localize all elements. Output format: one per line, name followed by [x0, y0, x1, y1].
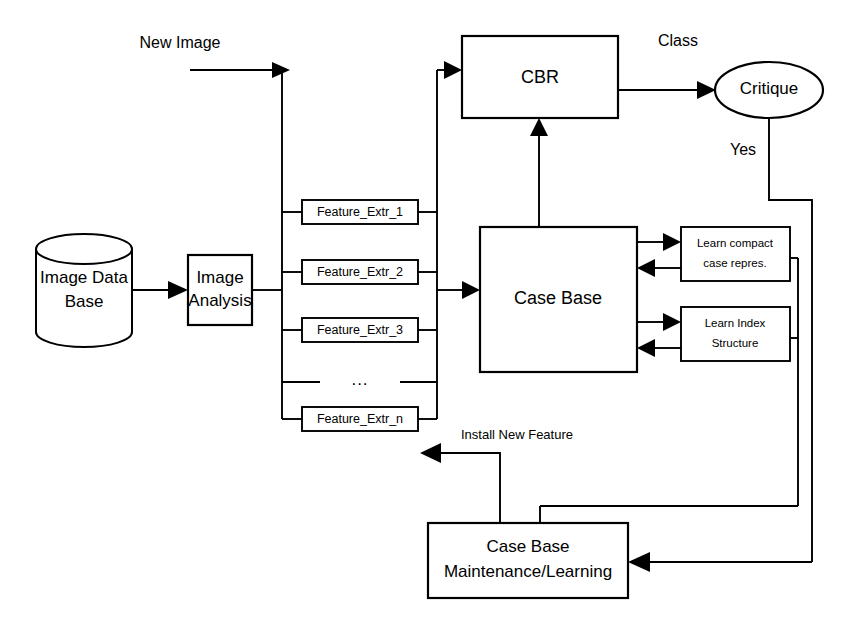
feature-extractor-2-label: Feature_Extr_2: [317, 265, 403, 279]
cbr-label: CBR: [521, 67, 559, 87]
edge-imagedb-to-analysis: [133, 281, 188, 299]
learn-index-label-line1: Learn Index: [705, 317, 766, 329]
image-analysis-label-line1: Image: [196, 268, 243, 287]
feature-extractor-3-label: Feature_Extr_3: [317, 323, 403, 337]
feature-extractor-1-label: Feature_Extr_1: [317, 205, 403, 219]
node-image-database[interactable]: Image Data Base: [36, 234, 132, 347]
diagram-canvas: Image Data Base Image Analysis Feature_E…: [0, 0, 859, 636]
image-database-label-line1: Image Data: [40, 268, 128, 287]
edge-label-yes: Yes: [730, 141, 756, 158]
image-analysis-label-line2: Analysis: [188, 291, 251, 310]
critique-label: Critique: [740, 79, 799, 98]
node-case-base[interactable]: Case Base: [480, 227, 637, 372]
node-maintenance[interactable]: Case Base Maintenance/Learning: [428, 523, 628, 598]
node-cbr[interactable]: CBR: [462, 36, 618, 118]
learn-compact-label-line1: Learn compact: [697, 237, 774, 249]
edge-casebase-to-cbr: [530, 118, 548, 227]
learn-index-label-line2: Structure: [712, 337, 759, 349]
node-image-analysis[interactable]: Image Analysis: [188, 255, 252, 325]
node-feature-extractor-2[interactable]: Feature_Extr_2: [302, 260, 418, 284]
edge-label-new-image: New Image: [140, 34, 221, 51]
case-base-label: Case Base: [514, 288, 602, 308]
edge-casebase-learncompact: [637, 233, 681, 277]
node-critique[interactable]: Critique: [715, 62, 823, 118]
flow-diagram: Image Data Base Image Analysis Feature_E…: [0, 0, 859, 636]
node-feature-extractor-3[interactable]: Feature_Extr_3: [302, 318, 418, 342]
edge-label-class: Class: [658, 32, 698, 49]
learn-compact-label-line2: case repres.: [703, 257, 766, 269]
edge-cbr-to-critique: [618, 81, 716, 99]
node-feature-extractor-n[interactable]: Feature_Extr_n: [302, 407, 418, 431]
edge-casebase-learnindex: [637, 313, 681, 357]
node-learn-index[interactable]: Learn Index Structure: [681, 307, 790, 361]
edge-new-image: [190, 62, 290, 78]
edge-distribution-spine: [252, 70, 320, 419]
maintenance-label-line2: Maintenance/Learning: [444, 562, 612, 581]
maintenance-label-line1: Case Base: [486, 537, 569, 556]
feature-extractor-ellipsis: ...: [351, 370, 368, 389]
node-learn-compact[interactable]: Learn compact case repres.: [681, 227, 790, 281]
edge-install-new-feature: [420, 443, 500, 523]
node-feature-extractor-1[interactable]: Feature_Extr_1: [302, 200, 418, 224]
edge-label-install-new-feature: Install New Feature: [461, 427, 573, 442]
feature-extractor-n-label: Feature_Extr_n: [317, 412, 403, 426]
image-database-label-line2: Base: [65, 292, 104, 311]
